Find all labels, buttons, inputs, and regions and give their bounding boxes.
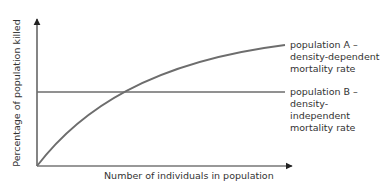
legend-b-line-1: population B –	[290, 86, 385, 98]
legend-a-line-2: density-dependent	[290, 51, 380, 63]
y-axis-label: Percentage of population killed	[11, 19, 22, 167]
population-a-curve	[37, 45, 285, 166]
legend-b-line-2: density-independent	[290, 98, 385, 122]
legend-a-line-3: mortality rate	[290, 63, 380, 75]
legend-b-line-3: mortality rate	[290, 122, 385, 134]
legend-population-b: population B – density-independent morta…	[290, 86, 385, 134]
legend-population-a: population A – density-dependent mortali…	[290, 39, 380, 75]
x-axis-label: Number of individuals in population	[104, 170, 274, 181]
legend-a-line-1: population A –	[290, 39, 380, 51]
